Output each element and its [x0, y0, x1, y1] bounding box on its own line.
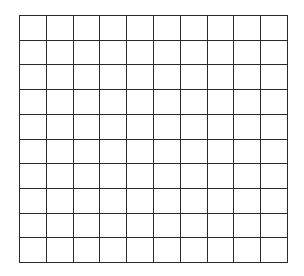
grid-cell: [46, 114, 73, 139]
grid-cell: [126, 163, 153, 188]
grid-cell: [19, 188, 46, 213]
grid-cell: [99, 114, 126, 139]
grid-cell: [126, 188, 153, 213]
grid-cell: [19, 237, 46, 262]
grid-cell: [260, 40, 287, 65]
grid-cell: [207, 40, 234, 65]
grid-cell: [99, 15, 126, 40]
grid-cell: [126, 64, 153, 89]
grid-cell: [233, 114, 260, 139]
grid-cell: [73, 139, 100, 164]
grid-cell: [207, 15, 234, 40]
grid-cell: [46, 237, 73, 262]
grid-cell: [153, 163, 180, 188]
grid-cell: [207, 163, 234, 188]
grid-cell: [46, 89, 73, 114]
grid-cell: [233, 139, 260, 164]
grid-cell: [19, 139, 46, 164]
grid-cell: [153, 213, 180, 238]
grid-cell: [207, 237, 234, 262]
grid-cell: [126, 40, 153, 65]
grid-cell: [19, 64, 46, 89]
grid-cell: [99, 188, 126, 213]
grid-cell: [73, 40, 100, 65]
grid-cell: [233, 213, 260, 238]
grid-cell: [180, 213, 207, 238]
grid-cell: [19, 40, 46, 65]
grid-cell: [19, 163, 46, 188]
grid-cell: [233, 15, 260, 40]
grid-cell: [180, 163, 207, 188]
grid-cell: [207, 114, 234, 139]
grid-cell: [153, 15, 180, 40]
grid-cell: [126, 15, 153, 40]
grid-cell: [260, 213, 287, 238]
grid-cell: [233, 188, 260, 213]
grid-cell: [99, 237, 126, 262]
grid-cell: [180, 64, 207, 89]
grid-cell: [260, 114, 287, 139]
grid-cell: [126, 89, 153, 114]
grid-cell: [233, 40, 260, 65]
grid-cell: [153, 40, 180, 65]
grid-cell: [207, 139, 234, 164]
grid-cell: [180, 40, 207, 65]
grid-cell: [19, 114, 46, 139]
grid-cell: [99, 213, 126, 238]
grid-cell: [260, 139, 287, 164]
grid-cell: [99, 40, 126, 65]
grid-cell: [153, 64, 180, 89]
grid-cell: [207, 213, 234, 238]
grid-cell: [126, 237, 153, 262]
grid-cell: [99, 89, 126, 114]
grid-cell: [260, 237, 287, 262]
grid-cell: [207, 64, 234, 89]
grid-cell: [73, 163, 100, 188]
grid-cell: [73, 64, 100, 89]
grid-cell: [180, 188, 207, 213]
grid-cell: [46, 40, 73, 65]
grid-cell: [207, 89, 234, 114]
grid-cell: [153, 139, 180, 164]
grid-cell: [73, 237, 100, 262]
grid-cell: [46, 139, 73, 164]
grid-cell: [180, 139, 207, 164]
grid-cell: [73, 15, 100, 40]
grid-cell: [260, 163, 287, 188]
grid-cell: [99, 64, 126, 89]
grid-cell: [153, 237, 180, 262]
grid-cell: [153, 89, 180, 114]
grid-cell: [260, 89, 287, 114]
grid-cell: [73, 114, 100, 139]
grid-cell: [19, 213, 46, 238]
grid-cell: [73, 213, 100, 238]
grid-cell: [46, 163, 73, 188]
grid-cell: [46, 15, 73, 40]
grid-cell: [233, 89, 260, 114]
grid-cell: [180, 114, 207, 139]
grid-cell: [99, 163, 126, 188]
grid-cell: [260, 15, 287, 40]
grid-cell: [126, 213, 153, 238]
grid-cell: [46, 188, 73, 213]
grid-cell: [73, 89, 100, 114]
grid-cell: [153, 188, 180, 213]
square-grid: [19, 15, 288, 263]
grid-cell: [19, 15, 46, 40]
grid-cell: [233, 237, 260, 262]
grid-cell: [233, 163, 260, 188]
grid-cell: [233, 64, 260, 89]
grid-cell: [260, 64, 287, 89]
grid-cell: [46, 64, 73, 89]
grid-cell: [46, 213, 73, 238]
grid-cell: [207, 188, 234, 213]
grid-cell: [126, 114, 153, 139]
grid-cell: [153, 114, 180, 139]
grid-cell: [99, 139, 126, 164]
grid-cell: [73, 188, 100, 213]
grid-cell: [180, 89, 207, 114]
grid-cell: [126, 139, 153, 164]
grid-cell: [180, 15, 207, 40]
grid-cell: [180, 237, 207, 262]
grid-cell: [260, 188, 287, 213]
